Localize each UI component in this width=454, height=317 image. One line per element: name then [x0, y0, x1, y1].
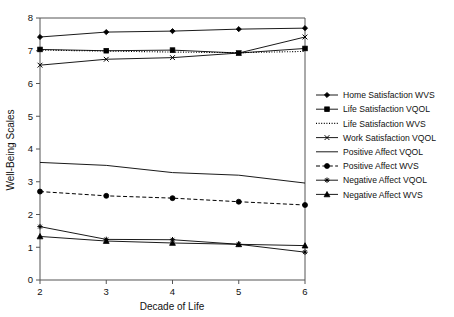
- y-tick-label: 3: [28, 176, 33, 187]
- x-tick-label: 5: [236, 286, 241, 297]
- x-axis-ticks: 23456: [37, 280, 307, 297]
- legend-label: Negative Affect WVS: [343, 190, 423, 200]
- data-point-diamond: [236, 27, 241, 32]
- legend-item-life-satisfaction-vqol[interactable]: Life Satisfaction VQOL: [316, 104, 430, 114]
- data-point-circle: [104, 193, 109, 198]
- well-being-line-chart: 012345678 23456 Home Satisfaction WVSLif…: [0, 0, 454, 317]
- data-point-diamond: [37, 34, 42, 39]
- data-point-circle: [303, 203, 308, 208]
- x-axis-title: Decade of Life: [140, 301, 205, 312]
- data-point-circle: [170, 196, 175, 201]
- chart-figure: 012345678 23456 Home Satisfaction WVSLif…: [0, 0, 454, 317]
- data-point-diamond: [302, 26, 307, 31]
- y-tick-label: 8: [28, 12, 33, 23]
- data-point-diamond: [324, 92, 329, 97]
- series-home-satisfaction-wvs: [37, 26, 307, 40]
- y-tick-label: 0: [28, 274, 33, 285]
- y-tick-label: 6: [28, 78, 33, 89]
- legend-item-negative-affect-wvs[interactable]: Negative Affect WVS: [316, 190, 423, 200]
- legend-item-life-satisfaction-wvs[interactable]: Life Satisfaction WVS: [316, 119, 426, 129]
- x-tick-label: 3: [104, 286, 109, 297]
- x-tick-label: 4: [170, 286, 175, 297]
- y-tick-label: 1: [28, 242, 33, 253]
- data-point-square: [325, 107, 330, 112]
- x-tick-label: 6: [302, 286, 307, 297]
- y-axis-ticks: 012345678: [28, 12, 40, 285]
- legend-item-home-satisfaction-wvs[interactable]: Home Satisfaction WVS: [316, 90, 435, 100]
- data-point-star: [324, 178, 329, 183]
- legend-item-positive-affect-vqol[interactable]: Positive Affect VQOL: [316, 147, 423, 157]
- legend-item-positive-affect-wvs[interactable]: Positive Affect WVS: [316, 161, 419, 171]
- y-tick-label: 5: [28, 111, 33, 122]
- data-point-diamond: [170, 29, 175, 34]
- legend-label: Negative Affect VQOL: [343, 175, 427, 185]
- legend-label: Home Satisfaction WVS: [343, 90, 435, 100]
- series-path: [40, 162, 305, 183]
- series-negative-affect-wvs: [37, 234, 308, 248]
- data-point-circle: [325, 164, 330, 169]
- legend-label: Work Satisfaction VQOL: [343, 133, 436, 143]
- data-point-diamond: [104, 29, 109, 34]
- chart-legend: Home Satisfaction WVSLife Satisfaction V…: [316, 90, 436, 199]
- y-tick-label: 4: [28, 143, 33, 154]
- y-axis-title: Well-Being Scales: [5, 110, 16, 191]
- series-life-satisfaction-vqol: [38, 46, 308, 55]
- legend-label: Life Satisfaction VQOL: [343, 104, 430, 114]
- data-point-star: [302, 249, 307, 254]
- legend-label: Positive Affect WVS: [343, 161, 419, 171]
- series-positive-affect-wvs: [38, 189, 308, 207]
- legend-item-negative-affect-vqol[interactable]: Negative Affect VQOL: [316, 175, 427, 185]
- series-group: [37, 26, 308, 255]
- y-tick-label: 2: [28, 209, 33, 220]
- y-tick-label: 7: [28, 45, 33, 56]
- data-point-square: [38, 47, 43, 52]
- data-point-circle: [236, 199, 241, 204]
- series-positive-affect-vqol: [40, 162, 305, 183]
- data-point-star: [37, 224, 42, 229]
- legend-item-work-satisfaction-vqol[interactable]: Work Satisfaction VQOL: [316, 133, 436, 143]
- legend-label: Life Satisfaction WVS: [343, 119, 426, 129]
- data-point-square: [303, 46, 308, 51]
- data-point-circle: [38, 189, 43, 194]
- x-tick-label: 2: [37, 286, 42, 297]
- legend-label: Positive Affect VQOL: [343, 147, 423, 157]
